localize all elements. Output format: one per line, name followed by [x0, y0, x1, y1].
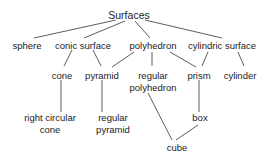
- node-regular-pyramid-line1: regular: [96, 112, 130, 124]
- node-regular-pyramid: regular pyramid: [96, 112, 130, 136]
- node-sphere: sphere: [12, 40, 41, 52]
- node-polyhedron: polyhedron: [129, 40, 176, 52]
- node-right-circular-cone-line1: right circular: [24, 112, 76, 124]
- node-cylindric-surface: cylindric surface: [188, 40, 256, 52]
- node-surfaces: Surfaces: [108, 9, 149, 21]
- node-right-circular-cone-line2: cone: [24, 124, 76, 136]
- node-cube: cube: [167, 142, 188, 154]
- node-regular-polyhedron-line1: regular: [129, 70, 176, 82]
- node-regular-polyhedron: regular polyhedron: [129, 70, 176, 94]
- node-prism: prism: [187, 70, 210, 82]
- node-regular-polyhedron-line2: polyhedron: [129, 82, 176, 94]
- node-regular-pyramid-line2: pyramid: [96, 124, 130, 136]
- node-cone: cone: [52, 70, 73, 82]
- node-cylinder: cylinder: [224, 70, 257, 82]
- node-pyramid: pyramid: [85, 70, 119, 82]
- node-box: box: [192, 112, 207, 124]
- node-right-circular-cone: right circular cone: [24, 112, 76, 136]
- node-conic-surface: conic surface: [55, 40, 111, 52]
